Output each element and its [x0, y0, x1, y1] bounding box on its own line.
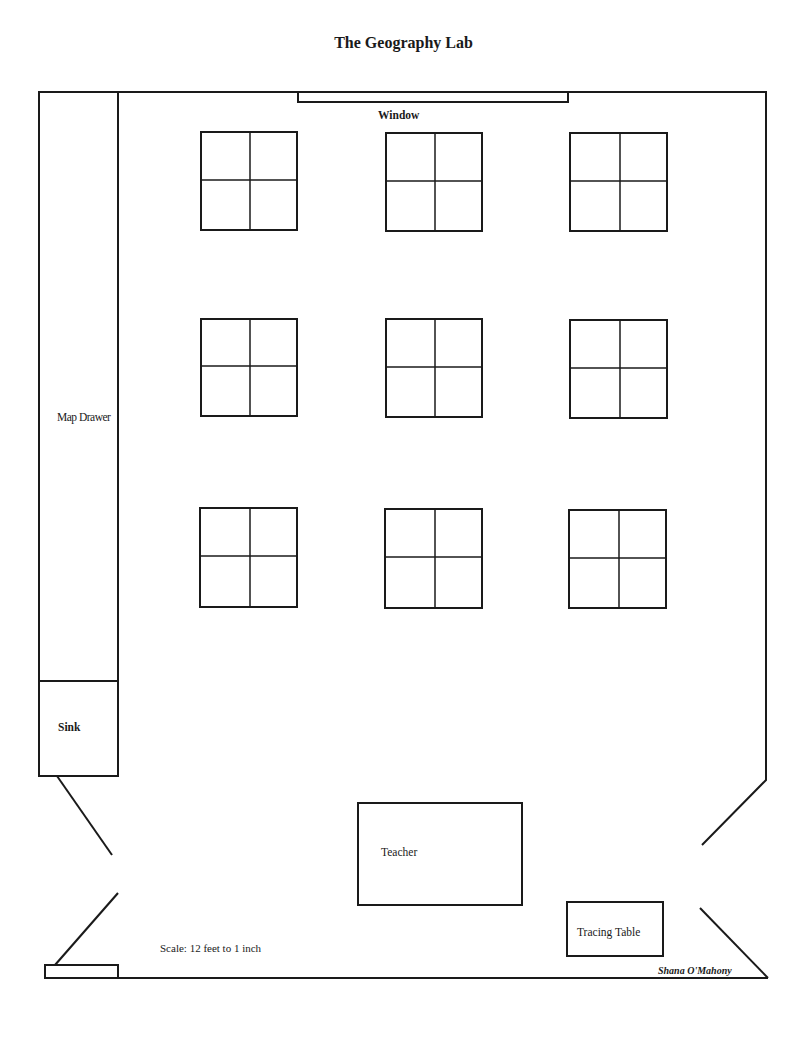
wall-top-right [40, 92, 766, 845]
map-drawer-label: Map Drawer [57, 411, 110, 423]
student-table [385, 509, 482, 608]
window-label: Window [378, 109, 419, 121]
student-table [200, 508, 297, 607]
sink-label: Sink [58, 721, 80, 733]
student-table [570, 320, 667, 418]
door-left-lower [55, 893, 118, 965]
door-left-upper [57, 776, 112, 855]
student-table [569, 510, 666, 608]
student-table [386, 319, 482, 417]
student-table [386, 133, 482, 231]
bottom-left-cabinet [45, 965, 118, 978]
student-tables [200, 132, 667, 608]
map-drawer [39, 92, 118, 681]
window [298, 92, 568, 102]
student-table [201, 132, 297, 230]
teacher-label: Teacher [381, 846, 417, 858]
floor-plan [0, 0, 807, 1037]
author-signature: Shana O'Mahony [658, 965, 732, 976]
student-table [570, 133, 667, 231]
tracing-table-label: Tracing Table [577, 926, 640, 938]
scale-label: Scale: 12 feet to 1 inch [160, 942, 261, 954]
student-table [201, 319, 297, 416]
